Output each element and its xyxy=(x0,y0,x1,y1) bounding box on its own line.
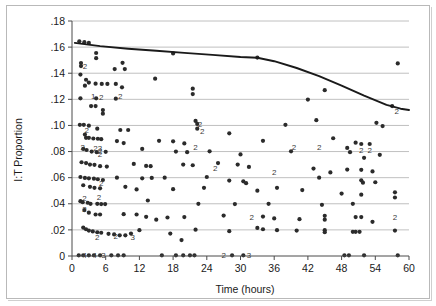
data-point xyxy=(171,187,175,191)
data-point xyxy=(109,253,113,257)
data-point xyxy=(361,181,365,185)
data-point xyxy=(320,203,324,207)
data-point xyxy=(191,87,195,91)
data-point xyxy=(323,230,327,234)
data-point xyxy=(92,177,96,181)
data-point xyxy=(261,214,265,218)
data-point xyxy=(120,85,124,89)
data-point xyxy=(94,51,98,55)
figure-frame: 2122222222322222222222222222344323 0.02.… xyxy=(0,0,436,306)
data-point xyxy=(123,185,127,189)
data-point xyxy=(362,253,366,257)
data-point xyxy=(283,123,287,127)
x-tick-label: 54 xyxy=(369,262,381,274)
data-point xyxy=(101,108,105,112)
scatter-chart: 2122222222322222222222222222344323 0.02.… xyxy=(0,0,436,306)
data-point xyxy=(255,226,259,230)
data-point xyxy=(227,131,231,135)
x-tick-label: 48 xyxy=(336,262,348,274)
data-point xyxy=(373,180,377,184)
data-point xyxy=(123,233,127,237)
data-point xyxy=(275,228,279,232)
data-point xyxy=(345,146,349,150)
data-point xyxy=(179,238,183,242)
x-tick-label: 30 xyxy=(235,262,247,274)
data-point xyxy=(89,104,93,108)
x-tick-label: 42 xyxy=(302,262,314,274)
data-point xyxy=(244,181,248,185)
overlap-count-label: 2 xyxy=(82,194,87,203)
data-point xyxy=(91,136,95,140)
data-point xyxy=(140,176,144,180)
data-point xyxy=(208,149,212,153)
x-axis-title: Time (hours) xyxy=(215,283,274,295)
data-point xyxy=(106,232,110,236)
data-point xyxy=(323,214,327,218)
data-point xyxy=(101,112,105,116)
data-point xyxy=(79,160,83,164)
data-point xyxy=(236,163,240,167)
x-tick-label: 24 xyxy=(201,262,213,274)
data-point xyxy=(328,170,332,174)
data-point xyxy=(181,253,185,257)
data-point xyxy=(345,167,349,171)
overlap-count-label: 2 xyxy=(80,143,85,152)
data-point xyxy=(168,231,172,235)
y-tick-label: .08 xyxy=(50,145,65,157)
data-point xyxy=(122,141,126,145)
data-point xyxy=(370,220,374,224)
overlap-count-label: 2 xyxy=(394,107,399,116)
data-point xyxy=(347,253,351,257)
data-point xyxy=(115,176,119,180)
data-point xyxy=(144,215,148,219)
data-point xyxy=(238,152,242,156)
overlap-count-label: 2 xyxy=(393,213,398,222)
data-point xyxy=(95,127,99,131)
data-point xyxy=(163,176,167,180)
data-point xyxy=(205,175,209,179)
overlap-count-label: 2 xyxy=(250,213,255,222)
data-point xyxy=(331,136,335,140)
overlap-count-label: 1 xyxy=(91,92,96,101)
data-point xyxy=(340,191,344,195)
data-point xyxy=(202,186,206,190)
data-point xyxy=(357,230,361,234)
data-point xyxy=(104,150,108,154)
data-point xyxy=(99,137,103,141)
overlap-count-label: 2 xyxy=(99,93,104,102)
data-point xyxy=(227,229,231,233)
data-point xyxy=(88,163,92,167)
data-point xyxy=(87,253,91,257)
data-point xyxy=(87,176,91,180)
data-point xyxy=(396,253,400,257)
overlap-count-label: 2 xyxy=(99,179,104,188)
data-point xyxy=(126,128,130,132)
overlap-count-label: 2 xyxy=(200,127,205,136)
data-point xyxy=(295,228,299,232)
y-tick-label: .06 xyxy=(50,171,65,183)
data-point xyxy=(185,150,189,154)
data-point xyxy=(191,163,195,167)
x-tick-label: 18 xyxy=(167,262,179,274)
overlap-count-label: 2 xyxy=(213,164,218,173)
data-point xyxy=(78,96,82,100)
data-point xyxy=(122,212,126,216)
data-point xyxy=(181,163,185,167)
data-point xyxy=(188,253,192,257)
data-point xyxy=(393,228,397,232)
data-point xyxy=(123,67,127,71)
data-point xyxy=(261,139,265,143)
data-point xyxy=(83,176,87,180)
data-point xyxy=(146,198,150,202)
trend-line xyxy=(75,43,409,110)
data-point xyxy=(113,67,117,71)
data-point xyxy=(122,253,126,257)
data-point xyxy=(314,118,318,122)
data-point xyxy=(261,227,265,231)
data-point xyxy=(115,139,119,143)
data-point xyxy=(230,253,234,257)
overlap-count-label: 2 xyxy=(317,143,322,152)
data-point xyxy=(227,178,231,182)
data-point xyxy=(222,213,226,217)
y-tick-label: .02 xyxy=(50,224,65,236)
